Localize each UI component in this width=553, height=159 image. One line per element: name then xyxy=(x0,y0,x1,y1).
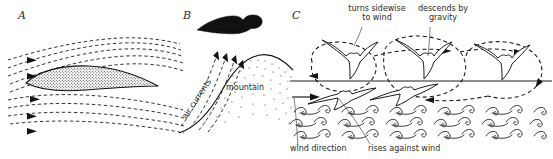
panel-b-drawing xyxy=(175,0,295,159)
mountain-label: mountain xyxy=(226,84,264,93)
wind-direction-arrow xyxy=(292,93,320,100)
wind-direction-label: wind direction xyxy=(290,145,347,154)
bird-soaring-b xyxy=(197,15,262,34)
bird-upper-left xyxy=(322,40,378,79)
airfoil-body xyxy=(26,66,158,91)
leader-lines xyxy=(294,27,430,146)
panel-c-drawing xyxy=(288,0,553,159)
descends-by-gravity-label: descends by gravity xyxy=(412,5,474,23)
wave-row-2 xyxy=(290,117,542,126)
soaring-flight-figure: A xyxy=(0,0,553,159)
panel-a-airfoil: A xyxy=(0,0,185,159)
panel-b-slope-soaring: B xyxy=(175,0,295,159)
descends-by-line-2: gravity xyxy=(429,13,457,22)
rises-against-wind-label: rises against wind xyxy=(368,145,440,154)
bird-lower-mid xyxy=(370,84,438,106)
descends-by-line-1: descends by xyxy=(418,4,468,13)
turns-sidewise-to-wind-label: turns sidewise to wind xyxy=(342,5,412,23)
turns-sidewise-line-2: to wind xyxy=(362,13,392,22)
panel-c-dynamic-soaring: C xyxy=(288,0,553,159)
wave-row-1 xyxy=(294,105,546,114)
bird-lower-left xyxy=(308,88,376,110)
turns-sidewise-line-1: turns sidewise xyxy=(348,4,405,13)
sea-waves xyxy=(290,105,546,138)
panel-a-drawing xyxy=(0,0,185,159)
bird-upper-mid xyxy=(396,40,452,79)
wave-row-3 xyxy=(294,129,546,138)
mountain-stipple xyxy=(204,59,291,127)
